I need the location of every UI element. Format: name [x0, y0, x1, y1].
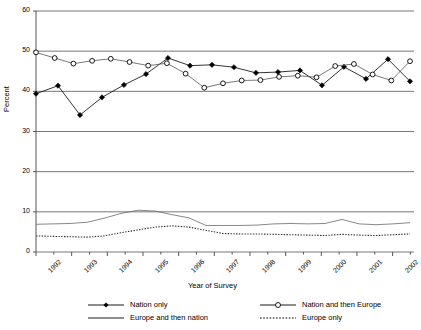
data-marker-circle [258, 78, 263, 83]
series-3 [36, 210, 410, 225]
data-marker-diamond [209, 62, 214, 67]
y-tick-label: 30 [8, 127, 30, 134]
legend-sample-line [258, 312, 298, 324]
legend-sample-open-circle [258, 299, 298, 311]
data-marker-circle [71, 61, 76, 66]
data-marker-circle [389, 78, 394, 83]
data-marker-circle [90, 58, 95, 63]
legend-entry[interactable]: Europe and then nation [86, 311, 208, 324]
data-marker-circle [221, 81, 226, 86]
legend-column-right: Nation and then EuropeEurope only [258, 298, 381, 324]
data-marker-circle [239, 78, 244, 83]
legend-label: Nation only [130, 300, 168, 309]
data-marker-circle [408, 59, 413, 64]
series-line [36, 226, 410, 237]
data-marker-diamond [187, 63, 192, 68]
legend-entry[interactable]: Nation only [86, 298, 208, 311]
series-2 [34, 50, 413, 90]
data-marker-circle [352, 62, 357, 67]
data-marker-circle [183, 71, 188, 76]
data-marker-circle [202, 85, 207, 90]
series-4 [36, 226, 410, 237]
data-marker-circle [370, 72, 375, 77]
legend-entry[interactable]: Europe only [258, 311, 381, 324]
legend-entry[interactable]: Nation and then Europe [258, 298, 381, 311]
data-marker-diamond [253, 70, 258, 75]
data-marker-circle [34, 50, 39, 55]
legend-label: Europe and then nation [130, 313, 208, 322]
y-tick-label: 50 [8, 46, 30, 53]
data-marker-circle [295, 73, 300, 78]
legend-label: Europe only [302, 313, 342, 322]
data-marker-circle [314, 75, 319, 80]
data-marker-circle [108, 56, 113, 61]
legend-column-left: Nation onlyEurope and then nation [86, 298, 208, 324]
data-marker-circle [277, 74, 282, 79]
y-tick-label: 0 [8, 247, 30, 254]
data-marker-circle [52, 56, 57, 61]
data-marker-diamond [297, 68, 302, 73]
data-marker-circle [333, 64, 338, 69]
y-tick-label: 60 [8, 6, 30, 13]
series-line [36, 210, 410, 225]
data-marker-diamond [231, 65, 236, 70]
chart-container: Percent Year of Survey 6050403020100 199… [0, 0, 421, 330]
legend-sample-line [86, 312, 126, 324]
data-marker-circle [127, 60, 132, 65]
data-marker-circle [146, 63, 151, 68]
data-marker-diamond [121, 82, 126, 87]
legend-label: Nation and then Europe [302, 300, 381, 309]
legend-sample-filled-diamond [86, 299, 126, 311]
data-marker-circle [165, 61, 170, 66]
data-marker-diamond [33, 91, 38, 96]
y-tick-label: 10 [8, 207, 30, 214]
y-tick-label: 40 [8, 86, 30, 93]
data-marker-diamond [275, 69, 280, 74]
chart-legend: Nation onlyEurope and then nation Nation… [0, 298, 421, 330]
y-tick-label: 20 [8, 167, 30, 174]
x-axis-title: Year of Survey [188, 281, 237, 290]
